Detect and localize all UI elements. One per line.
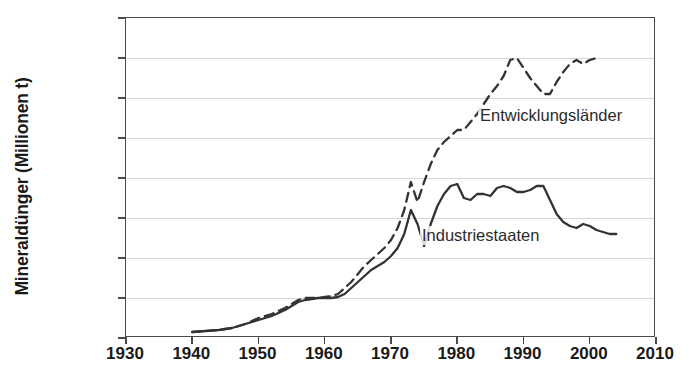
x-tick-mark-1950 [258, 337, 260, 344]
y-tick-mark-80 [118, 177, 125, 179]
x-tick-mark-1940 [191, 337, 193, 344]
y-tick-mark-20 [118, 297, 125, 299]
x-tick-label-1970: 1970 [355, 345, 425, 362]
x-tick-label-1930: 1930 [90, 345, 160, 362]
series-label-entwicklungslaender: Entwicklungsländer [478, 106, 624, 125]
series-label-industriestaaten: Industriestaaten [420, 226, 541, 245]
y-axis-title: Mineraldünger (Millionen t) [12, 17, 33, 357]
series-line-entwicklungsländer [192, 58, 596, 332]
x-tick-label-1960: 1960 [289, 345, 359, 362]
series-layer [126, 18, 654, 336]
y-tick-mark-0 [118, 337, 125, 339]
y-tick-mark-140 [118, 57, 125, 59]
y-tick-mark-120 [118, 97, 125, 99]
x-tick-mark-2010 [655, 337, 657, 344]
y-tick-mark-160 [118, 17, 125, 19]
x-tick-label-2000: 2000 [554, 345, 624, 362]
x-tick-label-1940: 1940 [156, 345, 226, 362]
x-tick-mark-2000 [589, 337, 591, 344]
x-tick-label-2010: 2010 [620, 345, 689, 362]
x-tick-mark-1970 [390, 337, 392, 344]
y-tick-mark-60 [118, 217, 125, 219]
x-tick-mark-1930 [125, 337, 127, 344]
y-tick-mark-100 [118, 137, 125, 139]
plot-inner [126, 18, 654, 336]
x-tick-label-1950: 1950 [223, 345, 293, 362]
x-tick-mark-1980 [456, 337, 458, 344]
chart-container: Mineraldünger (Millionen t) 020406080100… [0, 0, 689, 388]
x-tick-mark-1990 [523, 337, 525, 344]
x-tick-label-1980: 1980 [421, 345, 491, 362]
series-line-industriestaaten [192, 184, 616, 332]
x-tick-label-1990: 1990 [488, 345, 558, 362]
plot-area [125, 17, 655, 337]
y-tick-mark-40 [118, 257, 125, 259]
x-tick-mark-1960 [324, 337, 326, 344]
